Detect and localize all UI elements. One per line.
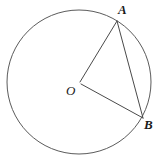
point-label-o: O	[66, 84, 75, 97]
radius-segment-oa	[80, 21, 117, 82]
radius-segment-ob	[81, 84, 143, 118]
chord-segment-ab	[117, 21, 143, 118]
point-label-b: B	[144, 118, 153, 131]
geometry-figure: A O B	[0, 0, 158, 161]
point-label-a: A	[118, 3, 127, 16]
geometry-canvas	[0, 0, 158, 161]
circle-outline	[7, 10, 151, 154]
